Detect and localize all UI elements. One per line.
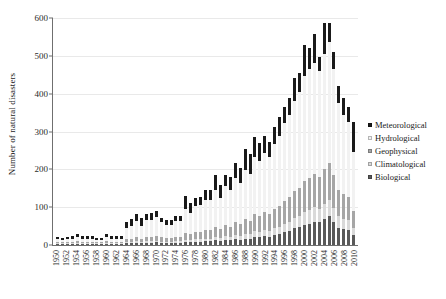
stacked-bar[interactable] [293, 78, 296, 245]
bar-segment-meteorological [328, 23, 331, 42]
bar-segment-biological [337, 228, 340, 245]
stacked-bar[interactable] [229, 177, 232, 245]
bar-segment-biological [204, 241, 207, 245]
stacked-bar[interactable] [115, 236, 118, 245]
bar-segment-geophysical [352, 211, 355, 228]
stacked-bar[interactable] [332, 52, 335, 245]
bar-segment-meteorological [135, 214, 138, 222]
bar-segment-biological [293, 228, 296, 245]
bar-segment-meteorological [303, 45, 306, 76]
bar-segment-meteorological [332, 52, 335, 69]
bar-segment-geophysical [194, 232, 197, 240]
stacked-bar[interactable] [95, 238, 98, 245]
stacked-bar[interactable] [224, 175, 227, 245]
plot-area: 0100200300400500600 [52, 18, 358, 246]
stacked-bar[interactable] [170, 220, 173, 245]
stacked-bar[interactable] [160, 218, 163, 245]
bar-segment-biological [105, 244, 108, 246]
bar-segment-hydrological [352, 152, 355, 211]
stacked-bar[interactable] [328, 23, 331, 245]
stacked-bar[interactable] [234, 163, 237, 245]
stacked-bar[interactable] [179, 216, 182, 245]
stacked-bar[interactable] [273, 127, 276, 245]
stacked-bar[interactable] [76, 234, 79, 245]
bar-segment-biological [209, 241, 212, 245]
stacked-bar[interactable] [135, 214, 138, 245]
stacked-bar[interactable] [214, 175, 217, 245]
stacked-bar[interactable] [308, 48, 311, 245]
stacked-bar[interactable] [337, 86, 340, 245]
bar-segment-hydrological [135, 221, 138, 237]
bar-segment-meteorological [313, 34, 316, 64]
bar-segment-hydrological [268, 157, 271, 215]
stacked-bar[interactable] [249, 154, 252, 245]
bar-segment-hydrological [140, 226, 143, 239]
stacked-bar[interactable] [125, 222, 128, 245]
stacked-bar[interactable] [145, 214, 148, 245]
stacked-bar[interactable] [86, 236, 89, 245]
bar-segment-biological [239, 240, 242, 245]
stacked-bar[interactable] [342, 98, 345, 245]
stacked-bar[interactable] [184, 196, 187, 245]
bar-segment-climatological [352, 228, 355, 235]
stacked-bar[interactable] [174, 216, 177, 245]
legend-item-biological[interactable]: Biological [368, 170, 446, 183]
stacked-bar[interactable] [61, 238, 64, 245]
stacked-bar[interactable] [81, 236, 84, 245]
bar-segment-hydrological [342, 115, 345, 194]
stacked-bar[interactable] [303, 45, 306, 245]
stacked-bar[interactable] [165, 220, 168, 245]
stacked-bar[interactable] [189, 203, 192, 245]
stacked-bar[interactable] [288, 98, 291, 245]
stacked-bar[interactable] [130, 219, 133, 245]
stacked-bar[interactable] [283, 107, 286, 245]
stacked-bar[interactable] [313, 34, 316, 245]
stacked-bar[interactable] [56, 237, 59, 245]
bar-segment-biological [155, 242, 158, 245]
stacked-bar[interactable] [298, 73, 301, 245]
stacked-bar[interactable] [244, 149, 247, 245]
stacked-bar[interactable] [199, 197, 202, 245]
stacked-bar[interactable] [219, 185, 222, 246]
stacked-bar[interactable] [71, 236, 74, 245]
stacked-bar[interactable] [120, 236, 123, 245]
stacked-bar[interactable] [110, 236, 113, 245]
bar-segment-meteorological [204, 190, 207, 200]
stacked-bar[interactable] [140, 218, 143, 245]
stacked-bar[interactable] [91, 236, 94, 245]
bar-segment-geophysical [229, 227, 232, 238]
stacked-bar[interactable] [204, 190, 207, 245]
stacked-bar[interactable] [268, 142, 271, 245]
bar-segment-hydrological [145, 220, 148, 237]
stacked-bar[interactable] [209, 190, 212, 245]
stacked-bar[interactable] [263, 136, 266, 245]
stacked-bar[interactable] [318, 57, 321, 245]
stacked-bar[interactable] [150, 213, 153, 245]
stacked-bar[interactable] [258, 143, 261, 245]
bar-segment-climatological [308, 210, 311, 224]
legend-item-meteorological[interactable]: Meteorological [368, 118, 446, 131]
legend-item-climatological[interactable]: Climatological [368, 157, 446, 170]
bar-segment-biological [224, 240, 227, 245]
stacked-bar[interactable] [323, 23, 326, 245]
legend-item-geophysical[interactable]: Geophysical [368, 144, 446, 157]
stacked-bar[interactable] [194, 198, 197, 245]
legend-item-hydrological[interactable]: Hydrological [368, 131, 446, 144]
stacked-bar[interactable] [155, 211, 158, 245]
bar-segment-geophysical [288, 197, 291, 221]
stacked-bar[interactable] [239, 168, 242, 245]
stacked-bar[interactable] [105, 234, 108, 245]
stacked-bar[interactable] [352, 122, 355, 245]
bar-segment-biological [244, 239, 247, 245]
bar-segment-biological [140, 243, 143, 245]
bar-segment-biological [278, 234, 281, 245]
bar-segment-meteorological [318, 57, 321, 71]
stacked-bar[interactable] [347, 107, 350, 245]
bar-segment-climatological [288, 222, 291, 231]
bar-segment-hydrological [179, 221, 182, 237]
stacked-bar[interactable] [100, 238, 103, 245]
bar-segment-biological [352, 235, 355, 245]
stacked-bar[interactable] [253, 137, 256, 245]
stacked-bar[interactable] [278, 117, 281, 245]
stacked-bar[interactable] [66, 237, 69, 245]
